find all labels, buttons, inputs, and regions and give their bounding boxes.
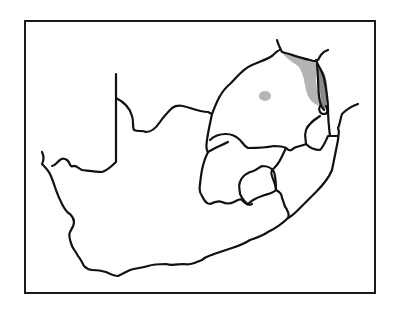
border-kzn-south bbox=[276, 190, 289, 218]
border-free-state bbox=[200, 152, 252, 205]
border-limpopo-north bbox=[277, 40, 328, 61]
border-fs-east bbox=[271, 148, 286, 190]
south-africa-map bbox=[0, 0, 401, 315]
border-swaziland-east bbox=[306, 136, 338, 150]
border-botswana bbox=[116, 50, 280, 132]
coastline-south bbox=[42, 152, 288, 276]
border-fs-north bbox=[208, 142, 228, 152]
coastline-east bbox=[288, 104, 358, 218]
border-namibia bbox=[52, 74, 116, 172]
border-mpumalanga-south bbox=[210, 116, 320, 150]
border-northern-gauteng bbox=[206, 114, 212, 152]
distribution-isolated-patch bbox=[259, 91, 271, 101]
